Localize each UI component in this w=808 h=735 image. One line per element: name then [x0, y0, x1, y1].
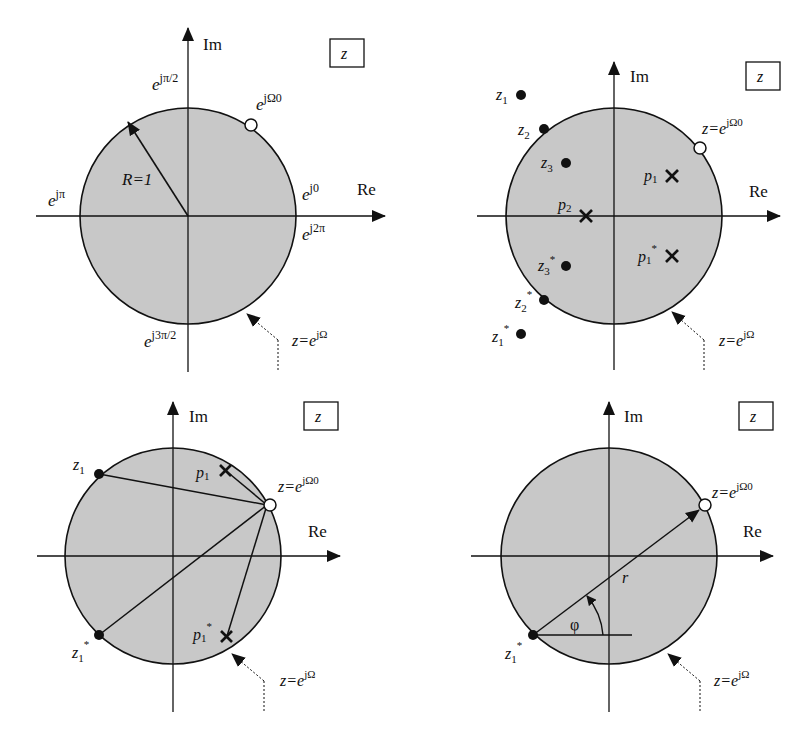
label-e-jpi: ejπ — [48, 187, 65, 210]
z-plane-label: z — [340, 45, 348, 62]
panel-unit-circle: Im Re z R=1 ejπ/2 ejΩ0 ejπ ej0 ej2π ej3π… — [36, 28, 385, 372]
radius-label: R=1 — [121, 170, 152, 189]
z-plane-label: z — [756, 68, 764, 85]
label-e-j0: ej0 — [302, 181, 319, 204]
pole-zero-diagrams: Im Re z R=1 ejπ/2 ejΩ0 ejπ ej0 ej2π ej3π… — [0, 0, 808, 735]
unit-circle-pointer-line — [232, 654, 264, 681]
point-z-ejw0 — [694, 142, 706, 154]
zero-label: z1 — [72, 456, 85, 476]
point-label: z=ejΩ0 — [711, 480, 753, 501]
unit-circle-label: z=ejΩ — [279, 668, 315, 689]
zero-label: z1* — [491, 322, 509, 348]
re-axis-label: Re — [743, 522, 762, 541]
unit-circle-pointer-line — [672, 312, 704, 340]
label-e-j3pi2: ej3π/2 — [144, 328, 176, 351]
re-axis-label: Re — [357, 180, 376, 199]
im-axis-label: Im — [624, 407, 643, 426]
zero-z3-conj — [561, 261, 571, 271]
im-axis-label: Im — [203, 35, 222, 54]
re-axis-label: Re — [749, 182, 768, 201]
unit-circle-label: z=ejΩ — [713, 668, 749, 689]
zero-label: z2 — [517, 121, 530, 141]
unit-circle-pointer-line — [247, 314, 278, 340]
zero-label: z1* — [71, 638, 89, 664]
distance-label: r — [622, 569, 629, 586]
zero-z2-conj — [539, 295, 549, 305]
zero-z1-conj — [94, 630, 104, 640]
unit-circle-pointer-line — [668, 654, 700, 681]
zero-z1 — [94, 469, 104, 479]
zero-z2 — [539, 124, 549, 134]
label-e-j2pi: ej2π — [302, 221, 325, 244]
label-e-jpi2: ejπ/2 — [152, 71, 178, 94]
z-plane-label: z — [314, 408, 322, 425]
zero-z3 — [561, 158, 571, 168]
zero-z1 — [516, 90, 526, 100]
panel-vectors: Im Re z z=ejΩ0 z1 z1* p1 p1* z=ejΩ — [37, 402, 340, 712]
zero-label: z1 — [495, 86, 508, 106]
im-axis-label: Im — [630, 67, 649, 86]
zero-label: z1* — [504, 639, 522, 665]
z-plane-label: z — [749, 408, 757, 425]
zero-z1-conj — [528, 630, 538, 640]
im-axis-label: Im — [189, 407, 208, 426]
zero-label: z2* — [514, 288, 532, 314]
point-z-ejw0 — [699, 499, 711, 511]
re-axis-label: Re — [308, 522, 327, 541]
label-e-jw0: ejΩ0 — [256, 91, 282, 114]
point-z-ejw0 — [264, 499, 276, 511]
panel-poles-zeros: Im Re z z=ejΩ0 z1 z2 z3 z3* z2* z1* p1 p… — [477, 62, 780, 372]
point-label: z=ejΩ0 — [277, 474, 319, 495]
point-e-jw0 — [245, 119, 257, 131]
unit-circle-label: z=ejΩ — [718, 328, 754, 349]
point-label: z=ejΩ0 — [701, 116, 743, 137]
panel-polar-vector: Im Re z φ r z=ejΩ0 z1* z=ejΩ — [471, 402, 773, 712]
zero-z1-conj — [516, 329, 526, 339]
unit-circle-label: z=ejΩ — [291, 328, 327, 349]
angle-label: φ — [570, 616, 579, 634]
